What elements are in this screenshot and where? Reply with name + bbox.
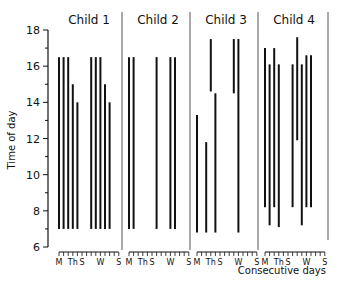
y-tick-label: 14	[26, 96, 40, 109]
x-tick-label: Th	[137, 258, 148, 267]
y-tick-label: 18	[26, 24, 40, 37]
y-tick-label: 10	[26, 169, 40, 182]
panel-title: Child 1	[68, 13, 110, 27]
chart-panels: Child 1MThSWSChild 2MThSWSChild 3MThSWSC…	[56, 12, 328, 267]
panel-title: Child 3	[205, 13, 247, 27]
x-tick-label: W	[166, 258, 174, 267]
panel-child-3: Child 3MThSWS	[194, 12, 260, 267]
x-tick-label: W	[96, 258, 104, 267]
x-tick-label: S	[116, 258, 121, 267]
x-tick-label: M	[56, 258, 63, 267]
panel-child-1: Child 1MThSWS	[56, 12, 122, 267]
y-tick-label: 6	[33, 241, 40, 254]
x-tick-label: M	[194, 258, 201, 267]
panel-child-2: Child 2MThSWS	[126, 12, 192, 267]
chart-canvas: 681012141618 Child 1MThSWSChild 2MThSWSC…	[0, 0, 341, 290]
x-tick-label: S	[79, 258, 84, 267]
x-tick-label: M	[126, 258, 133, 267]
x-tick-label: S	[186, 258, 191, 267]
panel-title: Child 4	[273, 13, 315, 27]
y-tick-label: 8	[33, 205, 40, 218]
x-tick-label: S	[217, 258, 222, 267]
x-tick-label: Th	[205, 258, 216, 267]
x-tick-label: Th	[67, 258, 78, 267]
y-axis-label: Time of day	[6, 110, 17, 170]
panel-title: Child 2	[137, 13, 179, 27]
x-axis-label: Consecutive days	[238, 265, 326, 276]
x-tick-label: S	[149, 258, 154, 267]
y-tick-label: 16	[26, 60, 40, 73]
y-axis: 681012141618	[26, 24, 48, 254]
y-tick-label: 12	[26, 133, 40, 146]
panel-child-4: Child 4MThSWS	[262, 12, 328, 267]
